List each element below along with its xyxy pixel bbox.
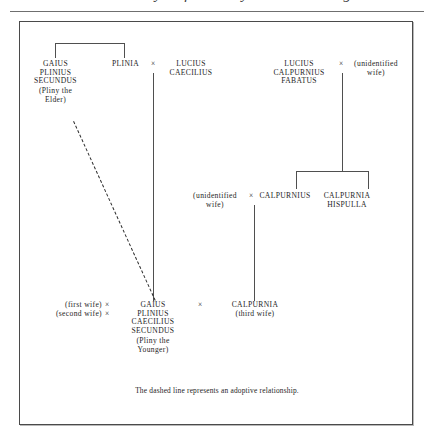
node-pliny-younger-name: GAIUS PLINIUS CAECILIUS SECUNDUS: [121, 301, 185, 336]
sibling-bracket-elder-plinia: [55, 43, 125, 58]
node-calpurnius-wife-name: (unidentified wife): [184, 192, 246, 209]
marriage-symbol-fabatus-wife: ×: [339, 60, 343, 67]
figure-page: The Family of Pliny the Younger GAIUS PL…: [0, 0, 432, 444]
node-plinia-name: PLINIA: [98, 60, 153, 69]
marriage-symbol-calpurnius-wife: ×: [249, 192, 253, 199]
node-second-wife-name: (second wife): [34, 310, 102, 319]
marriage-symbol-pliny-calpurnia: ×: [198, 301, 202, 308]
node-fabatus-name: LUCIUS CALPURNIUS FABATUS: [260, 60, 338, 86]
node-calpurnia-note: (third wife): [224, 310, 286, 319]
node-pliny-elder-name: GAIUS PLINIUS SECUNDUS: [28, 60, 83, 86]
marriage-symbol-first-wife: ×: [105, 301, 109, 308]
node-calpurnius-name: CALPURNIUS: [258, 192, 312, 201]
descent-line-fabatus-to-children: [342, 73, 343, 171]
descent-line-calpurnius-to-calpurnia: [254, 205, 255, 301]
node-calpurnia-hispulla-name: CALPURNIA HISPULLA: [316, 192, 378, 209]
marriage-symbol-second-wife: ×: [105, 310, 109, 317]
figure-caption: The dashed line represents an adoptive r…: [20, 386, 414, 395]
marriage-symbol-plinia-caecilius: ×: [151, 60, 155, 67]
node-pliny-elder-note: (Pliny the Elder): [28, 87, 83, 104]
adoption-line-elder-to-younger: [73, 121, 156, 301]
figure-frame: GAIUS PLINIUS SECUNDUS (Pliny the Elder)…: [19, 21, 413, 425]
node-pliny-younger-note: (Pliny the Younger): [121, 337, 185, 354]
node-fabatus-wife-name: (unidentified wife): [346, 60, 406, 77]
header-rule: [10, 11, 424, 12]
page-title-sliver: The Family of Pliny the Younger: [0, 0, 432, 2]
node-lucius-caecilius-name: LUCIUS CAECILIUS: [160, 60, 222, 77]
descent-line-plinia-to-pliny-younger: [153, 73, 154, 301]
sibling-bracket-calpurnius-hispulla: [296, 171, 369, 189]
